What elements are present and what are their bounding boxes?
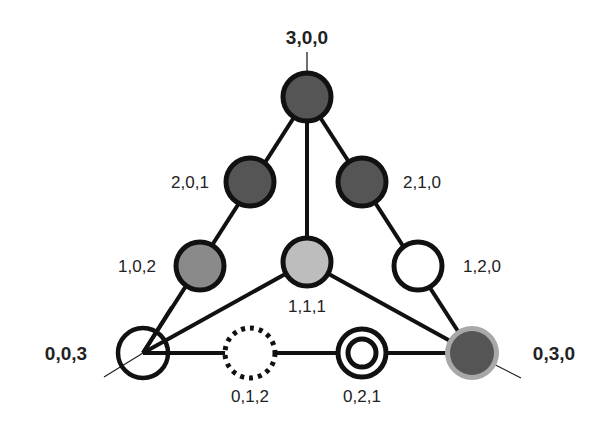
label-0-2-1: 0,2,1	[343, 387, 381, 406]
label-2-0-1: 2,0,1	[171, 173, 209, 192]
label-0-1-2: 0,1,2	[231, 387, 269, 406]
label-1-1-1: 1,1,1	[288, 297, 326, 316]
node-0-2-1-inner-ring	[348, 339, 376, 367]
edge-right-center	[307, 262, 472, 353]
node-2-0-1	[226, 158, 274, 206]
label-vertex-top: 3,0,0	[286, 27, 328, 48]
label-vertex-right: 0,3,0	[533, 343, 575, 364]
label-1-0-2: 1,0,2	[118, 257, 156, 276]
label-vertex-left: 0,0,3	[45, 343, 87, 364]
label-1-2-0: 1,2,0	[463, 257, 501, 276]
node-1-0-2	[176, 242, 224, 290]
node-1-2-0	[394, 242, 442, 290]
node-0-1-2	[225, 328, 275, 378]
edge-right-side	[307, 97, 472, 353]
node-0-3-0	[450, 331, 494, 375]
node-3-0-0	[283, 73, 331, 121]
node-2-1-0	[338, 158, 386, 206]
label-2-1-0: 2,1,0	[403, 173, 441, 192]
node-1-1-1	[283, 238, 331, 286]
ternary-diagram: 3,0,0 0,0,3 0,3,0 2,0,1 2,1,0 1,0,2 1,1,…	[0, 0, 611, 424]
edge-left-center	[143, 262, 307, 353]
